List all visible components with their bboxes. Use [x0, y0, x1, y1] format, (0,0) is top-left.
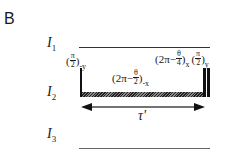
panel-label: B	[4, 10, 15, 28]
level-label-i2: I2	[47, 84, 56, 102]
denominator: 4	[177, 59, 181, 67]
level-line-i1	[79, 47, 210, 48]
axis-subscript: -x	[142, 79, 149, 88]
axis-subscript: x	[185, 60, 189, 69]
level-label-i1: I1	[47, 35, 56, 53]
prefix: (2π−	[112, 72, 133, 84]
level-line-i3	[79, 148, 210, 149]
prefix: (2π−	[155, 53, 176, 65]
level-subscript: 3	[52, 134, 57, 144]
level-subscript: 1	[52, 43, 57, 53]
denominator: 2	[196, 59, 200, 67]
denominator: 2	[134, 78, 138, 86]
interval-label-tau-prime: τ'	[138, 108, 146, 124]
label-left-pulse: ( π2 ) -y	[66, 52, 86, 69]
label-middle-pulse: (2π− θ2 ) -x	[112, 69, 149, 86]
axis-subscript: y	[205, 60, 209, 69]
level-label-i3: I3	[47, 126, 56, 144]
axis-subscript: -y	[79, 62, 86, 71]
pulse-2pi-theta4-x	[203, 68, 206, 97]
level-subscript: 2	[52, 92, 57, 102]
label-right-pulses: (2π− θ4 ) x ( π2 ) y	[155, 50, 209, 67]
denominator: 2	[71, 61, 75, 69]
pulse-pi2-y	[207, 68, 210, 97]
pulse-2pi-theta2-minus-x	[82, 92, 203, 97]
